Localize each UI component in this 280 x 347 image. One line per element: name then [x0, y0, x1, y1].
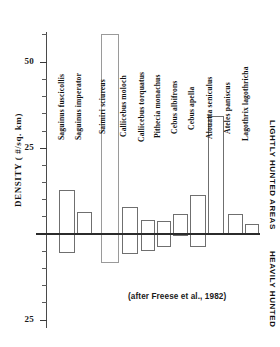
bar-negative	[141, 233, 155, 251]
category-label-alouatta-seniculus: Alouatta seniculus	[206, 77, 214, 139]
category-label-cebus-albifrons: Cebus albifrons	[171, 81, 179, 134]
bar-positive	[173, 214, 188, 234]
bar-positive	[228, 214, 243, 234]
category-label-saguinus-imperator: Saguinus imperator	[75, 73, 83, 140]
region-label-lightly-hunted: LIGHTLY HUNTED AREAS	[268, 120, 276, 230]
source-note: (after Freese et al., 1982)	[128, 292, 226, 301]
zero-baseline	[36, 233, 260, 235]
region-label-heavily-hunted: HEAVILY HUNTED	[268, 251, 276, 327]
bar-positive	[101, 34, 119, 234]
bar-positive	[77, 212, 92, 234]
category-label-ateles-paniscus: Ateles paniscus	[224, 82, 232, 134]
bar-negative	[101, 233, 119, 263]
bar-positive	[141, 220, 155, 234]
category-label-callicebus-torquatus: Callicebus torquatus	[138, 72, 146, 142]
bar-negative	[59, 233, 75, 253]
category-label-saimiri-sciureus: Saimiri sciureus	[99, 79, 107, 134]
chart-figure: DENSITY ( #/sq. km) 50 25 25	[0, 0, 280, 347]
bar-positive	[190, 195, 206, 234]
bar-negative	[157, 233, 171, 247]
bar-positive	[59, 190, 75, 234]
category-label-saguinus-fuscicollis: Saguinus fuscicollis	[58, 74, 66, 140]
bar-negative	[122, 233, 138, 254]
category-label-lagothrix-lagothricha: Lagothrix lagothricha	[242, 66, 250, 141]
category-label-pithecia-monachus: Pithecia monachus	[154, 74, 162, 138]
category-label-callicebus-moloch: Callicebus moloch	[120, 75, 128, 137]
bar-negative	[190, 233, 206, 247]
bar-positive	[122, 207, 138, 234]
category-label-cebus-apella: Cebus apella	[188, 87, 196, 130]
